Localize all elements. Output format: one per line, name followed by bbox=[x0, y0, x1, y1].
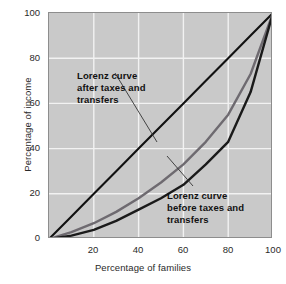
x-tick-label-40: 40 bbox=[118, 244, 158, 255]
leader-line-before-taxes bbox=[167, 156, 193, 186]
y-tick-label-0: 0 bbox=[0, 232, 40, 243]
x-tick-label-20: 20 bbox=[73, 244, 113, 255]
annotation-before-line-1: Lorenz curve bbox=[167, 190, 244, 202]
x-tick-label-100: 100 bbox=[253, 244, 286, 255]
annotation-before-line-2: before taxes and bbox=[167, 202, 244, 214]
annotation-lorenz-after-taxes: Lorenz curve after taxes and transfers bbox=[77, 70, 146, 107]
x-tick-label-80: 80 bbox=[208, 244, 248, 255]
y-tick-label-80: 80 bbox=[0, 52, 40, 63]
annotation-lorenz-before-taxes: Lorenz curve before taxes and transfers bbox=[167, 190, 244, 227]
annotation-after-line-1: Lorenz curve bbox=[77, 70, 146, 82]
y-axis-title: Percentage of income bbox=[22, 45, 33, 205]
x-axis-title: Percentage of families bbox=[0, 262, 286, 273]
lorenz-curve-chart: 100 80 60 40 20 0 20 40 60 80 100 Percen… bbox=[0, 0, 286, 284]
annotation-after-line-2: after taxes and bbox=[77, 82, 146, 94]
annotation-before-line-3: transfers bbox=[167, 214, 244, 226]
x-tick-label-60: 60 bbox=[163, 244, 203, 255]
y-tick-label-40: 40 bbox=[0, 142, 40, 153]
y-tick-label-60: 60 bbox=[0, 97, 40, 108]
y-tick-label-20: 20 bbox=[0, 187, 40, 198]
annotation-after-line-3: transfers bbox=[77, 94, 146, 106]
y-tick-label-100: 100 bbox=[0, 7, 40, 18]
